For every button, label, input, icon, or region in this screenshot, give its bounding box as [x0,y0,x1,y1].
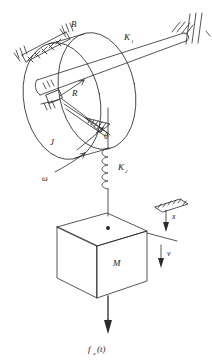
shaft-label-K1-subscript: 1 [131,39,134,44]
damper-label-B: B [71,19,77,29]
spring-label-K2-main: K [117,162,125,172]
spring-label-K2: K 2 [117,162,128,174]
applied-force-label: f a (t) [88,344,106,356]
applied-force-arrow [104,296,112,334]
mechanical-system-diagram: B K 1 R J θ ω K 2 M x v f a (t) [0,0,212,360]
applied-force-label-f: f [88,344,92,354]
angular-velocity-label-omega: ω [42,174,48,183]
radius-label-R: R [71,88,78,98]
x-reference-tie-line [147,233,177,241]
rotational-damper-B [14,23,73,62]
applied-force-label-subscript: a [93,351,96,356]
v-velocity-arrow [158,245,164,268]
fixed-wall-support [172,13,210,44]
shaft-label-K1-main: K [123,32,131,42]
inertia-label-J: J [50,137,55,147]
disk-near-face [13,36,110,166]
translational-spring-K2 [102,148,108,216]
disk-rim [49,34,110,158]
mass-label-M: M [112,258,121,268]
angle-label-theta: θ [104,132,108,141]
applied-force-label-arg: (t) [97,344,106,354]
displacement-label-x: x [171,212,176,221]
diagram-canvas: B K 1 R J θ ω K 2 M x v f a (t) [0,0,212,360]
disk-far-face [48,26,145,156]
spring-label-K2-subscript: 2 [125,169,128,174]
mass-top-attachment-point [106,226,110,230]
x-reference-ground [155,199,188,212]
x-displacement-arrow [163,210,169,232]
velocity-label-v: v [167,249,171,258]
disk-attachment-lines [62,99,110,136]
shaft-label-K1: K 1 [123,32,134,44]
mass-block-M [57,213,147,298]
omega-rotation-arrow [55,153,85,172]
